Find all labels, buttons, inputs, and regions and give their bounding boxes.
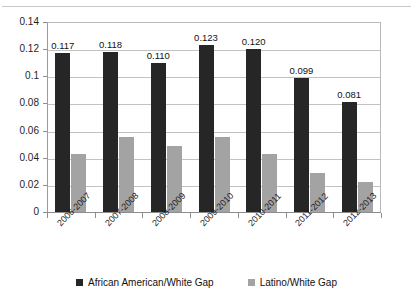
x-tick-mark [238, 213, 239, 218]
x-tick-mark [95, 213, 96, 218]
bar [55, 53, 70, 212]
bar [342, 102, 357, 212]
bar [294, 78, 309, 212]
bar [103, 52, 118, 212]
y-tick-label: 0.12 [0, 43, 39, 54]
bar-value-label: 0.117 [48, 40, 78, 51]
y-tick-label: 0.04 [0, 152, 39, 163]
chart-title [70, 0, 350, 2]
legend-item[interactable]: African American/White Gap [76, 277, 214, 288]
y-tick-label: 0.1 [0, 70, 39, 81]
x-tick-mark [190, 213, 191, 218]
bar [246, 49, 261, 212]
legend-item[interactable]: Latino/White Gap [248, 277, 337, 288]
y-tick-label: 0.08 [0, 97, 39, 108]
bar-value-label: 0.081 [334, 89, 364, 100]
bar-value-label: 0.110 [143, 50, 173, 61]
legend-swatch-icon [248, 279, 255, 286]
legend-swatch-icon [76, 279, 83, 286]
title-divider [2, 6, 411, 7]
legend-label: Latino/White Gap [260, 277, 337, 288]
y-tick-label: 0.02 [0, 179, 39, 190]
bar-value-label: 0.118 [96, 39, 126, 50]
legend-label: African American/White Gap [88, 277, 214, 288]
y-tick-label: 0 [0, 206, 39, 217]
bar [199, 45, 214, 212]
x-tick-mark [381, 213, 382, 218]
bar-value-label: 0.123 [191, 32, 221, 43]
x-tick-mark [47, 213, 48, 218]
x-tick-mark [333, 213, 334, 218]
chart-legend: African American/White GapLatino/White G… [0, 277, 413, 288]
x-tick-mark [142, 213, 143, 218]
x-tick-mark [286, 213, 287, 218]
bar-value-label: 0.099 [286, 65, 316, 76]
y-tick-label: 0.14 [0, 16, 39, 27]
bar-chart: 00.020.040.060.080.10.120.14 0.1170.1180… [0, 0, 413, 300]
bar-value-label: 0.120 [239, 36, 269, 47]
bar [151, 63, 166, 212]
bars-layer: 0.1170.1180.1100.1230.1200.0990.081 [47, 22, 381, 212]
y-tick-label: 0.06 [0, 125, 39, 136]
